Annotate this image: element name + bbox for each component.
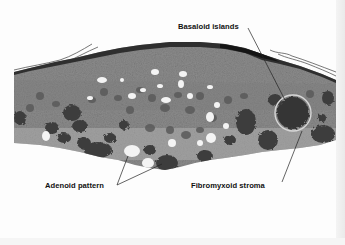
- label-fibromyxoid-stroma: Fibromyxoid stroma: [191, 181, 265, 190]
- label-adenoid-pattern: Adenoid pattern: [45, 181, 104, 190]
- figure-frame: Basaloid islands Adenoid pattern Fibromy…: [0, 0, 345, 245]
- tissue-section-micrograph: [0, 0, 345, 245]
- label-basaloid-islands: Basaloid islands: [178, 22, 239, 31]
